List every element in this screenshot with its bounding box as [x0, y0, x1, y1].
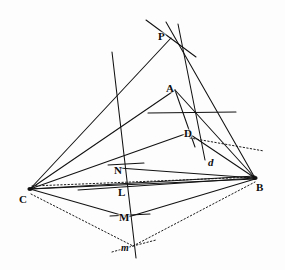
point-label-M: M	[119, 212, 129, 223]
point-label-m: m	[121, 243, 129, 253]
point-label-d: d	[208, 157, 214, 168]
point-label-B: B	[256, 182, 263, 193]
geometry-figure: P A D d N L M m C B	[0, 0, 285, 270]
vertex-dot-C	[27, 187, 32, 191]
point-label-D: D	[184, 128, 192, 139]
vertex-dot-B	[252, 176, 257, 180]
figure-background	[0, 0, 285, 270]
point-label-P: P	[158, 31, 165, 42]
point-label-A: A	[166, 83, 174, 94]
point-label-L: L	[118, 187, 125, 198]
point-label-N: N	[114, 165, 122, 176]
figure-canvas	[0, 0, 285, 270]
point-label-C: C	[19, 194, 27, 205]
